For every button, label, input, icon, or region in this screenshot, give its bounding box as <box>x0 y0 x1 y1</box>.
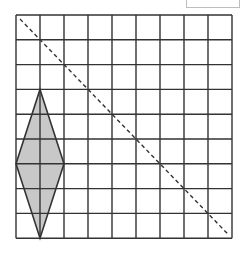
grid-diagram <box>0 0 243 254</box>
